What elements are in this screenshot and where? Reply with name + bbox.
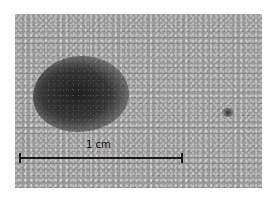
scale-bar-label: 1 cm (86, 139, 111, 150)
scale-bar (19, 153, 183, 162)
scale-bar-line (19, 157, 183, 159)
scale-bar-right-tick (181, 153, 183, 163)
pigmented-lesion (33, 56, 129, 132)
small-dark-spot (222, 108, 234, 117)
